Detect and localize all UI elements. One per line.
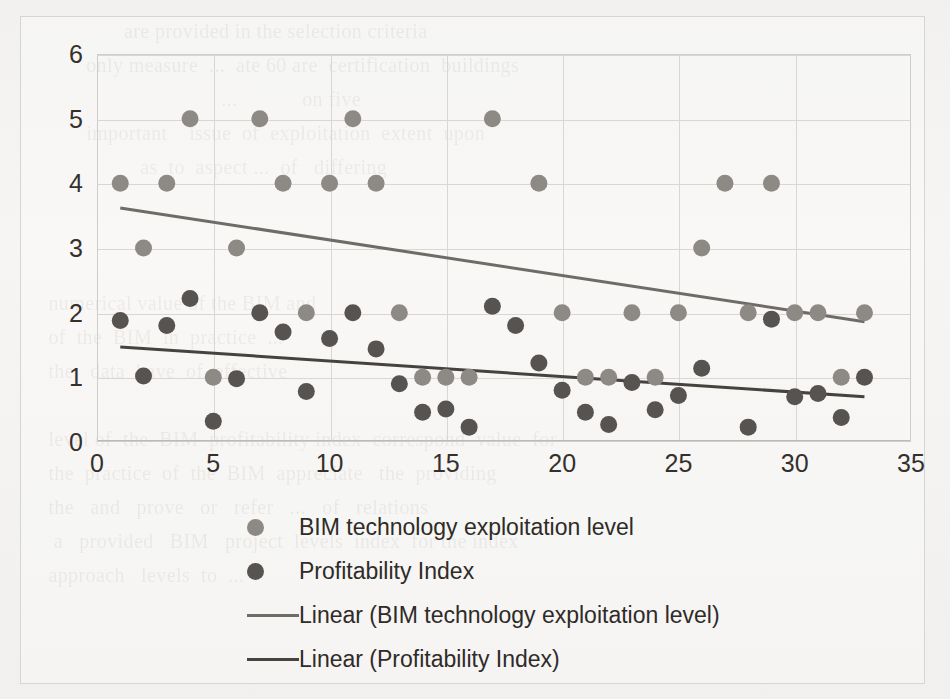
data-point — [344, 110, 361, 127]
y-axis-tick-label: 5 — [69, 104, 83, 133]
data-point — [856, 304, 873, 321]
data-point — [740, 304, 757, 321]
legend-marker-wrap — [221, 614, 299, 617]
data-point — [391, 304, 408, 321]
scatter-series — [112, 290, 873, 436]
data-point — [437, 369, 454, 386]
data-point — [182, 290, 199, 307]
y-axis-tick-label: 2 — [69, 298, 83, 327]
x-axis-tick-label: 20 — [548, 449, 576, 478]
data-point — [833, 369, 850, 386]
x-axis-tick-label: 5 — [206, 449, 220, 478]
data-point — [670, 304, 687, 321]
data-point — [577, 404, 594, 421]
data-point — [158, 317, 175, 334]
data-point — [461, 419, 478, 436]
x-axis-tick-labels: 05101520253035 — [97, 449, 911, 489]
legend-dot-icon — [247, 519, 264, 536]
data-point — [321, 330, 338, 347]
data-point — [275, 324, 292, 341]
data-point — [228, 240, 245, 257]
data-point — [507, 317, 524, 334]
data-point — [647, 401, 664, 418]
chart-frame: 0123456 05101520253035 BIM technology ex… — [20, 16, 925, 684]
data-point — [205, 369, 222, 386]
legend-line-icon — [247, 658, 299, 661]
x-axis-tick-label: 10 — [316, 449, 344, 478]
x-axis-tick-label: 35 — [897, 449, 925, 478]
data-point — [158, 175, 175, 192]
data-point — [484, 298, 501, 315]
x-axis-tick-label: 30 — [781, 449, 809, 478]
scatter-plot-svg — [97, 54, 911, 442]
data-point — [833, 409, 850, 426]
legend-item-label: Profitability Index — [299, 558, 474, 585]
data-point — [414, 404, 431, 421]
data-point — [228, 370, 245, 387]
legend-marker-wrap — [221, 658, 299, 661]
data-point — [414, 369, 431, 386]
data-point — [577, 369, 594, 386]
legend-line-icon — [247, 614, 299, 617]
data-point — [693, 240, 710, 257]
data-point — [856, 369, 873, 386]
legend-item[interactable]: BIM technology exploitation level — [221, 505, 841, 549]
data-point — [344, 304, 361, 321]
legend-item-label: BIM technology exploitation level — [299, 514, 634, 541]
data-point — [461, 369, 478, 386]
legend-item-label: Linear (BIM technology exploitation leve… — [299, 602, 720, 629]
data-point — [112, 175, 129, 192]
legend-dot-icon — [247, 563, 264, 580]
data-point — [391, 375, 408, 392]
y-axis-tick-label: 0 — [69, 428, 83, 457]
legend-item[interactable]: Linear (Profitability Index) — [221, 637, 841, 681]
data-point — [623, 304, 640, 321]
y-axis-tick-label: 4 — [69, 169, 83, 198]
data-point — [298, 383, 315, 400]
data-point — [182, 110, 199, 127]
data-point — [600, 416, 617, 433]
data-point — [368, 340, 385, 357]
legend-item[interactable]: Linear (BIM technology exploitation leve… — [221, 593, 841, 637]
data-point — [321, 175, 338, 192]
data-point — [740, 419, 757, 436]
data-point — [437, 401, 454, 418]
data-point — [693, 360, 710, 377]
data-point — [786, 304, 803, 321]
data-point — [600, 369, 617, 386]
data-point — [763, 311, 780, 328]
data-point — [670, 387, 687, 404]
y-axis-tick-labels: 0123456 — [21, 54, 97, 442]
plot-area-wrapper — [97, 54, 911, 442]
data-point — [809, 304, 826, 321]
data-point — [716, 175, 733, 192]
scatter-series — [112, 110, 873, 386]
data-point — [135, 368, 152, 385]
x-axis-tick-label: 0 — [90, 449, 104, 478]
data-point — [530, 355, 547, 372]
data-point — [554, 382, 571, 399]
chart-legend: BIM technology exploitation levelProfita… — [221, 505, 841, 681]
x-axis-tick-label: 15 — [432, 449, 460, 478]
y-axis-tick-label: 3 — [69, 234, 83, 263]
data-point — [112, 312, 129, 329]
data-point — [554, 304, 571, 321]
legend-marker-wrap — [221, 519, 299, 536]
data-point — [368, 175, 385, 192]
data-point — [623, 374, 640, 391]
data-point — [786, 388, 803, 405]
data-point — [205, 413, 222, 430]
data-point — [530, 175, 547, 192]
x-axis-tick-label: 25 — [665, 449, 693, 478]
y-axis-tick-label: 1 — [69, 363, 83, 392]
data-point — [809, 385, 826, 402]
data-point — [298, 304, 315, 321]
legend-item[interactable]: Profitability Index — [221, 549, 841, 593]
data-point — [251, 110, 268, 127]
data-point — [135, 240, 152, 257]
data-point — [763, 175, 780, 192]
legend-marker-wrap — [221, 563, 299, 580]
y-axis-tick-label: 6 — [69, 40, 83, 69]
legend-item-label: Linear (Profitability Index) — [299, 646, 560, 673]
data-point — [251, 304, 268, 321]
